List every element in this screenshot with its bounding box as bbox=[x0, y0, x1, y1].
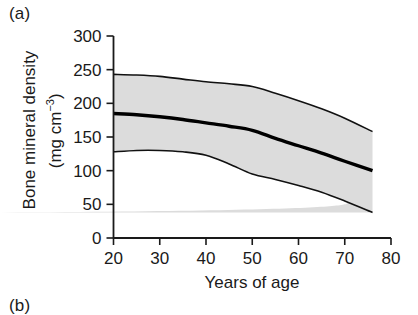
confidence-band-fill bbox=[1, 74, 373, 212]
x-tick-label: 30 bbox=[150, 249, 169, 268]
x-axis-ticks: 20304050607080 bbox=[104, 238, 400, 268]
y-tick-label: 300 bbox=[73, 27, 101, 46]
chart-plot-area: 050100150200250300 20304050607080 bbox=[0, 0, 418, 315]
y-tick-label: 0 bbox=[92, 229, 101, 248]
y-axis-ticks: 050100150200250300 bbox=[73, 27, 113, 248]
y-tick-label: 50 bbox=[83, 195, 102, 214]
y-tick-label: 150 bbox=[73, 128, 101, 147]
x-tick-label: 50 bbox=[243, 249, 262, 268]
y-tick-label: 250 bbox=[73, 61, 101, 80]
x-tick-label: 60 bbox=[289, 249, 308, 268]
x-tick-label: 40 bbox=[197, 249, 216, 268]
x-tick-label: 80 bbox=[382, 249, 401, 268]
x-tick-label: 20 bbox=[104, 249, 123, 268]
y-tick-label: 100 bbox=[73, 162, 101, 181]
y-tick-label: 200 bbox=[73, 94, 101, 113]
x-tick-label: 70 bbox=[335, 249, 354, 268]
confidence-band bbox=[1, 74, 373, 212]
